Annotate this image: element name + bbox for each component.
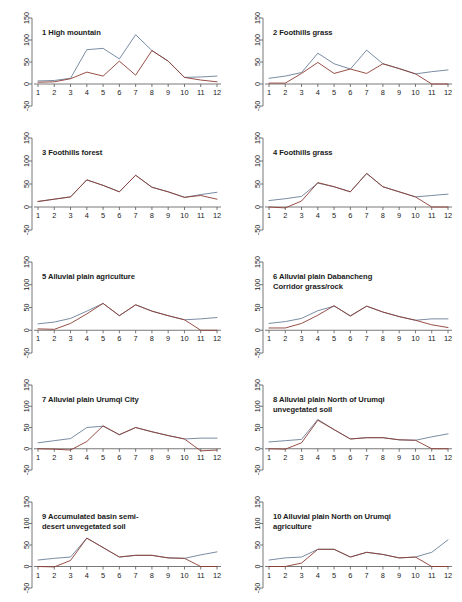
svg-text:11: 11 <box>428 334 436 343</box>
svg-text:7: 7 <box>134 88 138 97</box>
svg-text:50: 50 <box>253 58 262 66</box>
panel-title-10: 10 Alluvial plain North on Urumqi agricu… <box>273 512 391 531</box>
svg-text:100: 100 <box>22 400 31 412</box>
svg-text:4: 4 <box>316 334 320 343</box>
svg-text:8: 8 <box>150 453 154 462</box>
svg-text:1: 1 <box>36 334 40 343</box>
svg-text:1: 1 <box>36 211 40 220</box>
svg-text:1: 1 <box>267 211 271 220</box>
svg-text:0: 0 <box>22 328 31 332</box>
svg-text:4: 4 <box>85 334 89 343</box>
svg-text:1: 1 <box>267 453 271 462</box>
svg-text:0: 0 <box>22 565 31 569</box>
chart-panel-4: -50050100150123456789101112 4 Foothills … <box>231 128 462 252</box>
svg-text:12: 12 <box>213 334 221 343</box>
chart-panel-5: -50050100150123456789101112 5 Alluvial p… <box>0 252 231 375</box>
svg-text:150: 150 <box>253 379 262 391</box>
svg-text:2: 2 <box>52 571 56 580</box>
svg-text:9: 9 <box>166 88 170 97</box>
svg-text:3: 3 <box>68 334 72 343</box>
svg-text:7: 7 <box>134 453 138 462</box>
svg-text:50: 50 <box>22 541 31 549</box>
svg-text:50: 50 <box>253 304 262 312</box>
panel-title-4: 4 Foothills grass <box>273 148 333 158</box>
svg-text:11: 11 <box>197 571 205 580</box>
svg-text:5: 5 <box>332 571 336 580</box>
chart-svg-6: -50050100150123456789101112 <box>231 252 462 375</box>
svg-text:11: 11 <box>428 571 436 580</box>
svg-text:4: 4 <box>85 211 89 220</box>
panel-title-3: 3 Foothills forest <box>42 148 102 158</box>
svg-text:3: 3 <box>299 334 303 343</box>
chart-svg-3: -50050100150123456789101112 <box>0 128 231 252</box>
svg-text:-50: -50 <box>22 465 31 475</box>
svg-text:-50: -50 <box>22 583 31 593</box>
svg-text:5: 5 <box>101 453 105 462</box>
svg-text:3: 3 <box>68 453 72 462</box>
svg-text:10: 10 <box>411 211 419 220</box>
svg-text:6: 6 <box>117 571 121 580</box>
chart-svg-10: -50050100150123456789101112 <box>231 492 462 602</box>
panel-title-1: 1 High mountain <box>42 28 101 38</box>
svg-text:6: 6 <box>117 211 121 220</box>
svg-text:11: 11 <box>428 211 436 220</box>
svg-text:5: 5 <box>332 453 336 462</box>
chart-panel-1: -50050100150123456789101112 1 High mount… <box>0 8 231 128</box>
svg-text:7: 7 <box>365 211 369 220</box>
svg-text:11: 11 <box>197 88 205 97</box>
svg-text:50: 50 <box>22 424 31 432</box>
svg-text:9: 9 <box>397 453 401 462</box>
svg-text:11: 11 <box>197 453 205 462</box>
svg-text:7: 7 <box>365 571 369 580</box>
svg-text:7: 7 <box>365 88 369 97</box>
svg-text:6: 6 <box>348 211 352 220</box>
svg-text:7: 7 <box>134 334 138 343</box>
svg-text:3: 3 <box>299 571 303 580</box>
svg-text:3: 3 <box>299 211 303 220</box>
svg-text:12: 12 <box>444 88 452 97</box>
svg-text:0: 0 <box>22 447 31 451</box>
svg-text:9: 9 <box>166 453 170 462</box>
svg-text:6: 6 <box>348 571 352 580</box>
svg-text:4: 4 <box>85 571 89 580</box>
svg-text:-50: -50 <box>22 101 31 111</box>
panel-title-2: 2 Foothills grass <box>273 28 333 38</box>
svg-text:5: 5 <box>101 211 105 220</box>
svg-text:150: 150 <box>253 132 262 144</box>
svg-text:-50: -50 <box>22 225 31 235</box>
svg-text:0: 0 <box>253 447 262 451</box>
svg-text:2: 2 <box>283 88 287 97</box>
svg-text:10: 10 <box>180 88 188 97</box>
svg-text:5: 5 <box>101 571 105 580</box>
svg-text:9: 9 <box>166 334 170 343</box>
svg-text:150: 150 <box>22 496 31 508</box>
svg-text:5: 5 <box>332 88 336 97</box>
svg-text:2: 2 <box>283 453 287 462</box>
svg-text:-50: -50 <box>22 348 31 358</box>
svg-text:0: 0 <box>253 565 262 569</box>
panel-title-6: 6 Alluvial plain Dabancheng Corridor gra… <box>273 272 372 291</box>
svg-text:150: 150 <box>253 12 262 24</box>
chart-svg-8: -50050100150123456789101112 <box>231 375 462 492</box>
svg-text:1: 1 <box>267 571 271 580</box>
svg-text:0: 0 <box>253 328 262 332</box>
chart-svg-2: -50050100150123456789101112 <box>231 8 462 128</box>
svg-text:11: 11 <box>428 88 436 97</box>
svg-text:100: 100 <box>22 279 31 291</box>
svg-text:4: 4 <box>316 453 320 462</box>
svg-text:7: 7 <box>365 453 369 462</box>
svg-text:50: 50 <box>253 424 262 432</box>
svg-text:6: 6 <box>348 453 352 462</box>
svg-text:1: 1 <box>267 334 271 343</box>
svg-text:150: 150 <box>22 132 31 144</box>
svg-text:3: 3 <box>68 88 72 97</box>
svg-text:50: 50 <box>22 180 31 188</box>
svg-text:3: 3 <box>68 211 72 220</box>
svg-text:50: 50 <box>253 180 262 188</box>
svg-text:5: 5 <box>101 88 105 97</box>
svg-text:8: 8 <box>150 334 154 343</box>
svg-text:9: 9 <box>397 211 401 220</box>
svg-text:100: 100 <box>253 279 262 291</box>
svg-text:0: 0 <box>22 205 31 209</box>
svg-text:-50: -50 <box>253 348 262 358</box>
